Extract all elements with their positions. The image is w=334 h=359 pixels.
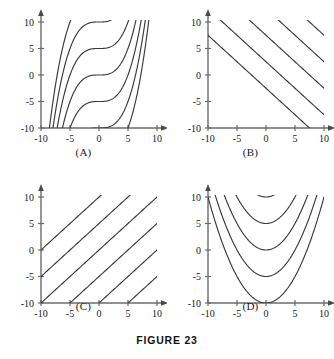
curve	[245, 17, 324, 89]
curve	[41, 192, 135, 277]
curve-family	[49, 17, 149, 134]
curve	[41, 192, 106, 250]
panel-c-label: (C)	[0, 300, 167, 312]
panel-b: -10-50510-10-50510 (B)	[167, 0, 334, 175]
curve	[126, 18, 149, 133]
panel-d-label: (D)	[167, 300, 334, 312]
x-tick-label: -10	[201, 133, 214, 144]
panel-a-cubic-family-svg: -10-50510-10-50510	[0, 0, 167, 146]
figure-23: -10-50510-10-50510 (A) -10-50510-10-5051…	[0, 0, 334, 359]
curve	[52, 17, 117, 134]
y-axis-arrow-icon	[205, 184, 211, 191]
curve	[214, 192, 318, 277]
y-tick-label: 0	[29, 70, 34, 81]
x-tick-label: -10	[34, 133, 47, 144]
y-tick-label: -5	[26, 271, 34, 282]
curve	[63, 224, 157, 309]
y-tick-label: -5	[193, 271, 201, 282]
y-tick-label: 5	[196, 43, 201, 54]
x-tick-label: 10	[152, 133, 162, 144]
curve	[303, 17, 324, 36]
y-tick-label: 5	[29, 218, 34, 229]
x-tick-label: 0	[97, 133, 102, 144]
curve	[49, 17, 72, 132]
y-axis-arrow-icon	[205, 9, 211, 16]
panel-a: -10-50510-10-50510 (A)	[0, 0, 167, 175]
curve-family	[208, 192, 324, 303]
y-tick-label: 0	[29, 245, 34, 256]
y-tick-label: 10	[191, 192, 201, 203]
y-tick-label: 0	[196, 70, 201, 81]
panel-b-label: (B)	[167, 146, 334, 158]
panel-grid: -10-50510-10-50510 (A) -10-50510-10-5051…	[0, 0, 334, 330]
y-tick-label: 10	[24, 192, 34, 203]
y-tick-label: 10	[191, 17, 201, 28]
x-tick-label: 10	[319, 133, 329, 144]
y-tick-label: 0	[196, 245, 201, 256]
panel-b-plot: -10-50510-10-50510	[167, 0, 334, 150]
x-tick-label: -5	[233, 133, 241, 144]
y-axis-arrow-icon	[38, 9, 44, 16]
y-tick-label: -10	[21, 123, 34, 134]
x-axis-arrow-icon	[328, 125, 334, 131]
curve	[252, 192, 279, 197]
y-tick-label: -10	[188, 123, 201, 134]
y-tick-label: 5	[196, 218, 201, 229]
panel-b-negative-slope-lines-svg: -10-50510-10-50510	[167, 0, 334, 146]
panel-c: -10-50510-10-50510 (C)	[0, 175, 167, 330]
x-tick-label: 5	[126, 133, 131, 144]
panel-a-plot: -10-50510-10-50510	[0, 0, 167, 150]
curve-family	[41, 192, 157, 309]
curve-family	[208, 17, 324, 134]
y-tick-label: -5	[193, 96, 201, 107]
curve	[274, 17, 324, 62]
curve	[208, 35, 316, 133]
y-tick-label: 10	[24, 17, 34, 28]
y-tick-label: 5	[29, 43, 34, 54]
x-tick-label: -5	[66, 133, 74, 144]
panel-a-label: (A)	[0, 146, 167, 158]
curve	[41, 197, 157, 303]
x-tick-label: 5	[293, 133, 298, 144]
y-tick-label: -5	[26, 96, 34, 107]
curve	[62, 18, 137, 132]
x-tick-label: 0	[264, 133, 269, 144]
y-axis-arrow-icon	[38, 184, 44, 191]
curve	[216, 17, 324, 115]
curve	[81, 17, 146, 134]
panel-d: -10-50510-10-50510 (D)	[167, 175, 334, 330]
curve	[223, 192, 309, 250]
figure-caption: FIGURE 23	[0, 334, 334, 346]
